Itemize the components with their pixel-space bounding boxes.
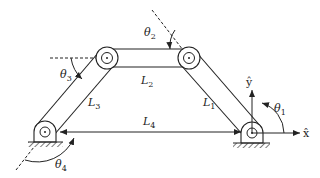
label-theta2: θ2 xyxy=(144,26,156,41)
theta3-arc xyxy=(71,58,82,79)
ground-pivot-left xyxy=(28,121,63,147)
theta2-arc xyxy=(170,30,175,49)
link-l2 xyxy=(107,49,189,67)
label-x-axis: x̂ xyxy=(303,127,310,140)
label-y-axis: ŷ xyxy=(245,76,253,89)
theta4-reference-line xyxy=(16,147,34,170)
label-l2: L2 xyxy=(140,74,153,89)
label-l1: L1 xyxy=(202,96,215,111)
label-l4: L4 xyxy=(142,115,155,130)
label-l3: L3 xyxy=(87,96,100,111)
theta2-reference-line xyxy=(152,10,183,50)
label-theta3: θ3 xyxy=(60,68,72,83)
label-theta1: θ1 xyxy=(274,102,286,117)
joint-top-right xyxy=(178,47,200,69)
joint-top-left xyxy=(96,47,118,69)
label-theta4: θ4 xyxy=(55,158,67,173)
four-bar-linkage-diagram: L2 L3 L1 L4 θ1 θ2 θ3 θ4 ŷ x̂ xyxy=(0,0,320,178)
